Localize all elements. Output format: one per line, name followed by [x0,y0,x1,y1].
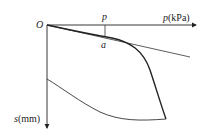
loading-curve [47,25,166,119]
y-axis-unit: (mm) [18,113,40,125]
load-marker-label: p [101,11,107,22]
x-axis-unit: (kPa) [168,12,190,24]
point-a-label: a [101,39,106,50]
unloading-curve [47,79,166,120]
y-axis-label: s(mm) [14,113,40,125]
load-settlement-diagram: O p a p(kPa) s(mm) [0,0,205,138]
origin-label: O [36,19,43,30]
diagram-svg: O p a p(kPa) s(mm) [0,0,205,138]
x-axis-label: p(kPa) [162,12,190,24]
